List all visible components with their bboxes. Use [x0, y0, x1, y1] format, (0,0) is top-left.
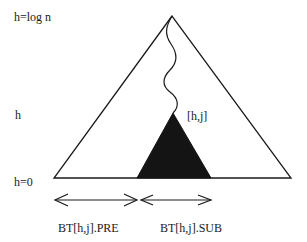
- pre-range-label: BT[h,j].PRE: [58, 222, 119, 234]
- pre-range-arrow: [55, 194, 137, 206]
- sub-range-label: BT[h,j].SUB: [160, 222, 222, 234]
- tree-diagram: [0, 0, 307, 242]
- level-label-top: h=log n: [14, 11, 51, 23]
- level-label-bottom: h=0: [14, 176, 33, 188]
- level-label-middle: h: [15, 109, 21, 121]
- root-to-node-path: [164, 16, 177, 113]
- sub-range-arrow: [141, 195, 211, 205]
- node-label: [h,j]: [187, 110, 207, 122]
